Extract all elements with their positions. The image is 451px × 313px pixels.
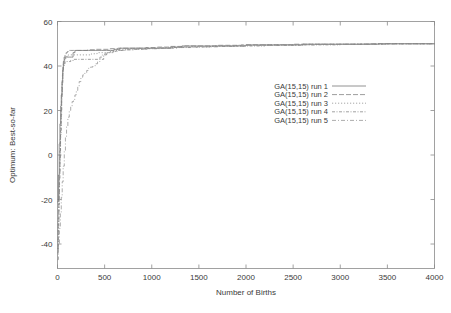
x-axis-title: Number of Births [216,288,276,297]
y-tick-label: -40 [41,240,53,249]
legend-label-run-5: GA(15,15) run 5 [274,116,328,125]
x-tick-label: 3500 [378,273,396,282]
chart-figure: 05001000150020002500300035004000 -40-200… [0,0,451,313]
y-tick-label: 0 [48,151,53,160]
y-tick-label: 40 [44,62,53,71]
x-tick-label: 3000 [331,273,349,282]
chart-canvas: 05001000150020002500300035004000 -40-200… [0,0,451,313]
x-tick-label: 2500 [284,273,302,282]
y-tick-label: 60 [44,18,53,27]
y-tick-label: -20 [41,196,53,205]
x-tick-label: 2000 [237,273,255,282]
x-tick-label: 0 [55,273,60,282]
y-tick-label: 20 [44,107,53,116]
x-tick-label: 1500 [190,273,208,282]
x-tick-label: 1000 [143,273,161,282]
x-tick-label: 500 [98,273,112,282]
y-axis-title: Optimum: Best-so-far [8,107,17,183]
chart-background [0,0,451,313]
x-tick-label: 4000 [426,273,444,282]
